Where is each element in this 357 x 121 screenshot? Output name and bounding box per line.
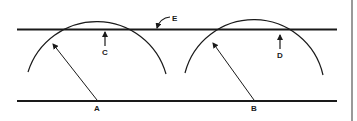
label-b: B [251,104,257,113]
label-a: A [94,104,100,113]
diagram-canvas: A B C D E [0,0,357,121]
arc-tangent-diagram: A B C D E [0,0,357,121]
label-e: E [172,14,178,23]
leader-e [157,17,170,28]
label-c: C [102,48,108,57]
radius-arrow-a [53,44,97,100]
label-d: D [277,51,283,60]
right-arc [185,20,323,75]
radius-arrow-b [213,43,254,100]
